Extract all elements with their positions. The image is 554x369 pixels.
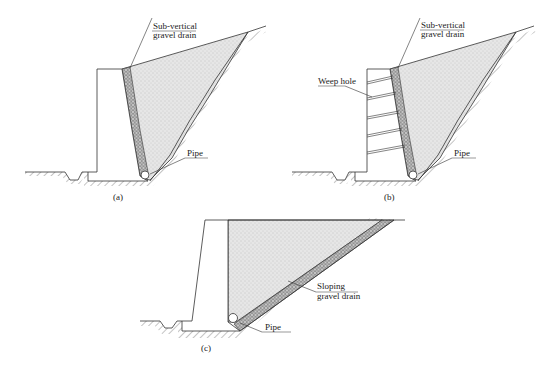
pipe-label: Pipe	[187, 148, 203, 158]
drain-label-line2: gravel drain	[421, 29, 465, 39]
drain-label-line1: Sloping	[317, 281, 346, 291]
pipe-label: Pipe	[454, 148, 470, 158]
pipe-icon	[141, 171, 149, 179]
panel-a: Sub-vertical gravel drain Pipe (a)	[25, 18, 266, 202]
drain-label-line2: gravel drain	[153, 30, 197, 40]
pipe-label: Pipe	[265, 322, 281, 332]
weep-hole-label: Weep hole	[318, 76, 356, 86]
pipe-icon	[229, 314, 238, 323]
panel-c: Sloping gravel drain Pipe (c)	[140, 218, 405, 353]
caption-a: (a)	[113, 192, 123, 202]
caption-b: (b)	[384, 192, 395, 202]
caption-c: (c)	[201, 343, 211, 353]
panel-b: Sub-vertical gravel drain Weep hole Pipe…	[292, 18, 536, 202]
drain-label-line2: gravel drain	[317, 291, 361, 301]
pipe-icon	[409, 171, 417, 179]
backfill	[228, 220, 382, 322]
retaining-wall-drainage-figure: Sub-vertical gravel drain Pipe (a) Sub-v…	[0, 0, 554, 369]
